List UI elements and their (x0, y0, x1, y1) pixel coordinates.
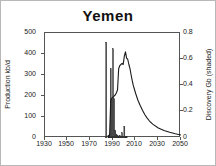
y-tick-left-500: 500 (2, 28, 36, 36)
discovery-bar (122, 133, 123, 138)
y-tick-right-02: 0.2 (183, 106, 213, 114)
y-tick-right-04: 0.4 (183, 80, 213, 88)
discovery-bar (115, 130, 116, 138)
discovery-bar (111, 99, 112, 138)
discovery-bar (118, 137, 119, 138)
y-axis-label-left: Production kb/d (4, 32, 15, 137)
discovery-bar (124, 126, 125, 138)
discovery-bar (116, 134, 117, 138)
x-tick-2050: 2050 (165, 140, 195, 147)
y-tick-right-08: 0.8 (183, 28, 213, 36)
discovery-bar (125, 137, 126, 138)
chart-title: Yemen (1, 7, 215, 24)
discovery-bar (126, 137, 127, 138)
chart-figure: Yemen Production kb/d Discovery Gb (shad… (0, 0, 216, 166)
y-tick-left-100: 100 (2, 112, 36, 120)
chart-canvas (45, 33, 181, 138)
y-tick-left-400: 400 (2, 49, 36, 57)
production-line (108, 52, 181, 137)
y-tick-right-06: 0.6 (183, 54, 213, 62)
discovery-bar (117, 135, 118, 138)
discovery-bar (106, 42, 107, 138)
discovery-bar (119, 135, 120, 138)
plot-area (44, 32, 180, 137)
y-tick-left-200: 200 (2, 91, 36, 99)
discovery-bar (123, 137, 124, 138)
discovery-bar (114, 99, 115, 138)
discovery-bar (112, 49, 113, 138)
discovery-bar (120, 137, 121, 138)
y-tick-left-300: 300 (2, 70, 36, 78)
